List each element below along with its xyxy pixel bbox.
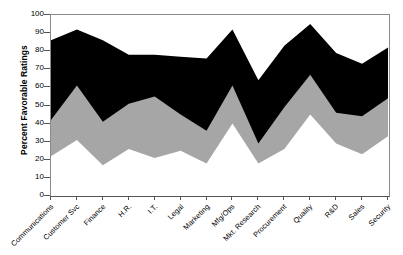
x-tick-mark (335, 196, 336, 200)
x-tick-label: Security (367, 202, 393, 228)
x-tick-label: Marketing (181, 202, 211, 232)
x-tick-mark (361, 196, 362, 200)
x-tick-label: R&D (323, 202, 341, 220)
x-tick-label: H.R. (116, 202, 133, 219)
x-tick-mark (309, 196, 310, 200)
x-tick-mark (231, 196, 232, 200)
x-tick-mark (102, 196, 103, 200)
stacked-area-chart: Percent Favorable Ratings 01020304050607… (0, 0, 403, 255)
x-tick-label: I.T. (145, 202, 159, 216)
x-axis-labels: CommunicationsCustomer SvcFinanceH.R.I.T… (0, 0, 403, 255)
x-tick-mark (128, 196, 129, 200)
x-tick-label: Finance (82, 202, 107, 227)
x-tick-mark (387, 196, 388, 200)
x-tick-mark (180, 196, 181, 200)
x-tick-mark (50, 196, 51, 200)
x-tick-mark (76, 196, 77, 200)
x-tick-mark (257, 196, 258, 200)
x-tick-label: Quality (291, 202, 314, 225)
x-tick-mark (206, 196, 207, 200)
x-tick-label: Legal (165, 202, 185, 222)
x-tick-mark (283, 196, 284, 200)
x-tick-label: Sales (347, 202, 367, 222)
x-tick-mark (154, 196, 155, 200)
x-tick-label: Communications (9, 202, 55, 248)
